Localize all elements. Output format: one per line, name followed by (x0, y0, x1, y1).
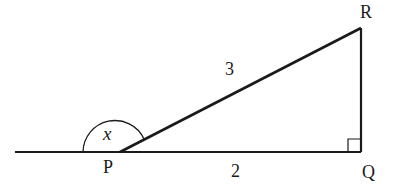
angle-x-arc (83, 121, 144, 152)
point-r-label: R (360, 2, 372, 22)
right-angle-marker (348, 139, 361, 152)
side-pr-line (120, 28, 361, 152)
angle-x-label: x (102, 123, 112, 144)
point-q-label: Q (362, 162, 375, 182)
triangle-diagram: x P Q R 3 2 (0, 0, 400, 192)
side-pq-length-label: 2 (231, 161, 240, 181)
side-pr-length-label: 3 (225, 59, 234, 79)
point-p-label: P (103, 157, 113, 177)
